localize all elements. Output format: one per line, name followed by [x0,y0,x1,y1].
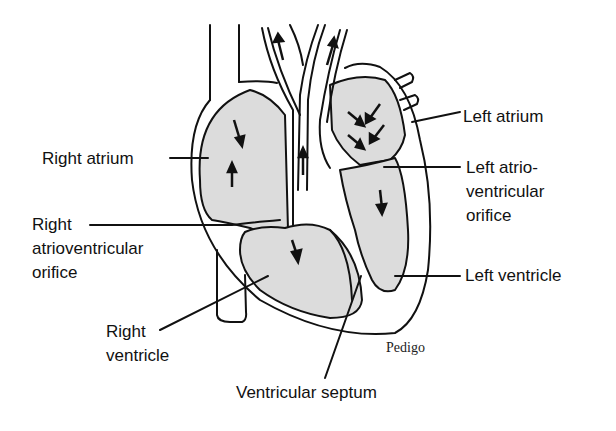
label-right-ventricle-line1: Right [106,322,146,342]
label-left-atrium: Left atrium [463,107,543,127]
artist-signature: Pedigo [386,340,425,356]
label-left-av-orifice-line1: Left atrio- [466,158,538,178]
label-right-ventricle-line2: ventricle [106,346,169,366]
label-right-av-orifice-line3: orifice [32,263,77,283]
label-left-av-orifice-line3: orifice [466,206,511,226]
heart-illustration [0,0,616,431]
label-left-av-orifice-line2: ventricular [466,182,544,202]
label-left-ventricle: Left ventricle [465,266,561,286]
label-ventricular-septum: Ventricular septum [236,383,377,403]
heart-diagram: Right atrium Right atrioventricular orif… [0,0,616,431]
label-right-av-orifice-line2: atrioventricular [32,239,144,259]
label-right-av-orifice-line1: Right [32,215,72,235]
label-right-atrium: Right atrium [42,149,134,169]
